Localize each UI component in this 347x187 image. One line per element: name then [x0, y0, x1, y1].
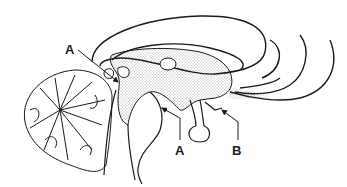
label-b: B — [232, 144, 241, 157]
cerebellum — [24, 70, 112, 171]
label-a-top: A — [65, 43, 74, 56]
pituitary — [189, 100, 222, 142]
label-a-bottom: A — [175, 144, 184, 157]
brain-diagram — [0, 0, 347, 187]
